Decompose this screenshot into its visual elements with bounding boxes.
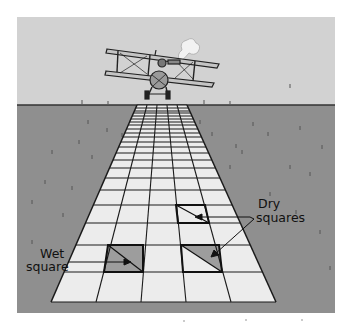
dry-squares-label-line2: squares	[256, 210, 305, 225]
crop-duster-illustration: Wet square Dry squares	[0, 0, 351, 325]
wet-square-label-line2: square	[26, 259, 69, 274]
print-specks	[183, 319, 303, 322]
dry-squares-label-line1: Dry	[258, 196, 281, 211]
